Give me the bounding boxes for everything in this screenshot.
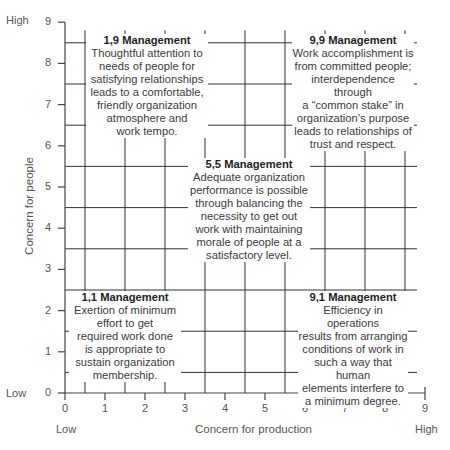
- management-style-1-9: 1,9 ManagementThoughtful attention tonee…: [86, 34, 208, 138]
- y-tick-label: 6: [45, 139, 51, 151]
- style-description-line: morale of people at a: [188, 236, 310, 249]
- style-description-line: Adequate organization: [188, 171, 310, 184]
- style-description-line: work with maintaining: [188, 223, 310, 236]
- style-description-line: atmosphere and: [86, 112, 208, 125]
- y-tick-label: 3: [45, 262, 51, 274]
- management-style-1-1: 1,1 ManagementExertion of minimumeffort …: [69, 291, 181, 382]
- style-description-line: such a way that human: [298, 356, 408, 382]
- style-description-line: trust and respect.: [292, 138, 414, 151]
- style-description-line: leads to relationships of: [292, 125, 414, 138]
- style-description-line: effort to get: [69, 317, 181, 330]
- style-description-line: Exertion of minimum: [69, 304, 181, 317]
- x-tick-label: 9: [422, 402, 428, 414]
- style-title: 5,5 Management: [188, 158, 310, 171]
- y-tick-label: 2: [45, 304, 51, 316]
- x-tick-label: 5: [262, 402, 268, 414]
- style-description-line: performance is possible: [188, 184, 310, 197]
- y-tick-label: 0: [45, 386, 51, 398]
- x-tick-label: 0: [62, 402, 68, 414]
- style-description-line: friendly organization: [86, 99, 208, 112]
- management-style-9-9: 9,9 ManagementWork accomplishment isfrom…: [292, 34, 414, 151]
- x-axis-label: Concern for production: [195, 423, 312, 435]
- style-description-line: is appropriate to: [69, 343, 181, 356]
- style-description-line: needs of people for: [86, 60, 208, 73]
- style-description-line: work tempo.: [86, 125, 208, 138]
- style-description-line: from committed people;: [292, 60, 414, 73]
- x-high-label: High: [415, 423, 438, 435]
- x-tick-label: 1: [102, 402, 108, 414]
- style-description-line: satisfactory level.: [188, 249, 310, 262]
- y-tick-label: 7: [45, 98, 51, 110]
- style-description-line: interdependence through: [292, 73, 414, 99]
- style-description-line: Work accomplishment is: [292, 47, 414, 60]
- x-tick-label: 4: [222, 402, 228, 414]
- style-title: 9,9 Management: [292, 34, 414, 47]
- y-tick-label: 1: [45, 345, 51, 357]
- style-description-line: leads to a comfortable,: [86, 86, 208, 99]
- style-description-line: organization’s purpose: [292, 112, 414, 125]
- y-low-label: Low: [6, 387, 26, 399]
- y-tick-label: 8: [45, 56, 51, 68]
- style-description-line: results from arranging: [298, 330, 408, 343]
- x-tick-label: 2: [142, 402, 148, 414]
- style-title: 1,1 Management: [69, 291, 181, 304]
- style-description-line: a “common stake” in: [292, 99, 414, 112]
- management-style-5-5: 5,5 ManagementAdequate organizationperfo…: [188, 158, 310, 262]
- style-description-line: Efficiency in operations: [298, 304, 408, 330]
- style-description-line: a minimum degree.: [298, 395, 408, 408]
- style-description-line: Thoughtful attention to: [86, 47, 208, 60]
- style-description-line: elements interfere to: [298, 382, 408, 395]
- x-low-label: Low: [56, 423, 76, 435]
- y-tick-label: 9: [45, 15, 51, 27]
- style-description-line: through balancing the: [188, 197, 310, 210]
- management-style-9-1: 9,1 ManagementEfficiency in operationsre…: [298, 291, 408, 408]
- y-high-label: High: [6, 14, 29, 26]
- y-tick-label: 5: [45, 180, 51, 192]
- x-tick-label: 3: [182, 402, 188, 414]
- style-description-line: satisfying relationships: [86, 73, 208, 86]
- style-description-line: sustain organization: [69, 356, 181, 369]
- style-description-line: conditions of work in: [298, 343, 408, 356]
- style-description-line: membership.: [69, 369, 181, 382]
- style-description-line: required work done: [69, 330, 181, 343]
- y-tick-label: 4: [45, 221, 51, 233]
- y-axis-label: Concern for people: [23, 151, 35, 261]
- style-title: 1,9 Management: [86, 34, 208, 47]
- style-title: 9,1 Management: [298, 291, 408, 304]
- style-description-line: necessity to get out: [188, 210, 310, 223]
